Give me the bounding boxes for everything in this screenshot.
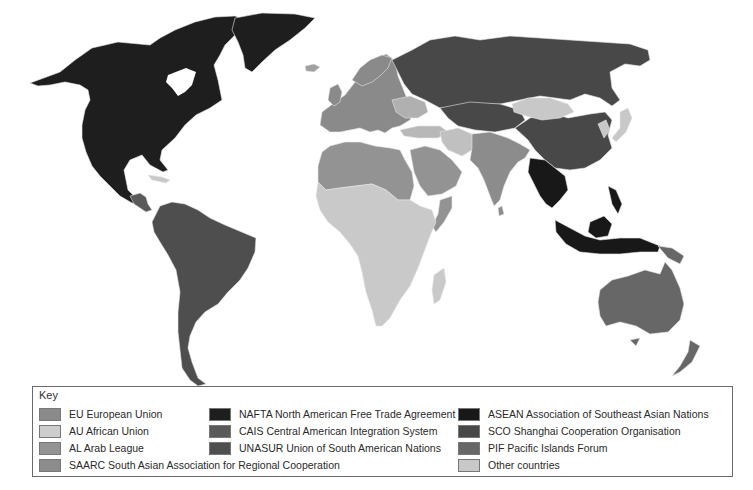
swatch-saarc xyxy=(39,459,61,472)
region-cais-central-america xyxy=(130,193,152,212)
key-label-unasur: UNASUR Union of South American Nations xyxy=(239,442,441,454)
region-pif-tasmania xyxy=(630,338,640,346)
region-au-madagascar xyxy=(432,268,446,304)
region-asean-borneo xyxy=(588,216,612,238)
key-label-au: AU African Union xyxy=(69,425,149,437)
key-item-al: AL Arab League xyxy=(39,440,144,456)
region-saarc-sri-lanka xyxy=(498,206,504,216)
key-label-asean: ASEAN Association of Southeast Asian Nat… xyxy=(488,408,709,420)
key-item-sco: SCO Shanghai Cooperation Organisation xyxy=(458,423,681,439)
key-item-asean: ASEAN Association of Southeast Asian Nat… xyxy=(458,406,709,422)
key-label-al: AL Arab League xyxy=(69,442,144,454)
key-item-saarc: SAARC South Asian Association for Region… xyxy=(39,457,340,473)
swatch-nafta xyxy=(209,408,231,421)
region-nafta-greenland xyxy=(232,13,315,72)
region-au-africa xyxy=(316,182,436,326)
key-item-eu: EU European Union xyxy=(39,406,162,422)
key-item-unasur: UNASUR Union of South American Nations xyxy=(209,440,441,456)
swatch-other xyxy=(458,459,480,472)
key-label-nafta: NAFTA North American Free Trade Agreemen… xyxy=(239,408,455,420)
swatch-cais xyxy=(209,425,231,438)
region-al-arabia xyxy=(410,146,462,196)
map-key: Key EU European Union AU African Union A… xyxy=(32,386,733,477)
key-item-pif: PIF Pacific Islands Forum xyxy=(458,440,608,456)
region-other-iran xyxy=(440,128,475,156)
key-label-sco: SCO Shanghai Cooperation Organisation xyxy=(488,425,681,437)
region-saarc-south-asia xyxy=(470,132,530,206)
key-label-other: Other countries xyxy=(488,459,560,471)
region-other-iceland xyxy=(305,64,320,72)
region-pif-new-zealand xyxy=(672,340,700,376)
region-pif-papua xyxy=(658,246,684,264)
region-unasur-south-america xyxy=(152,202,256,386)
key-label-eu: EU European Union xyxy=(69,408,162,420)
swatch-al xyxy=(39,442,61,455)
swatch-au xyxy=(39,425,61,438)
region-other-caribbean xyxy=(148,175,170,183)
key-title: Key xyxy=(39,389,58,401)
key-item-cais: CAIS Central American Integration System xyxy=(209,423,437,439)
key-label-pif: PIF Pacific Islands Forum xyxy=(488,442,608,454)
key-label-saarc: SAARC South Asian Association for Region… xyxy=(69,459,340,471)
swatch-asean xyxy=(458,408,480,421)
key-item-au: AU African Union xyxy=(39,423,149,439)
swatch-sco xyxy=(458,425,480,438)
region-pif-australia xyxy=(598,262,684,334)
region-al-somalia xyxy=(432,196,452,232)
region-sco-russia xyxy=(392,36,650,108)
region-other-japan xyxy=(612,108,632,142)
swatch-unasur xyxy=(209,442,231,455)
region-sco-central-asia xyxy=(440,102,525,132)
swatch-pif xyxy=(458,442,480,455)
key-label-cais: CAIS Central American Integration System xyxy=(239,425,437,437)
key-item-nafta: NAFTA North American Free Trade Agreemen… xyxy=(209,406,455,422)
region-asean-philippines xyxy=(608,186,622,214)
swatch-eu xyxy=(39,408,61,421)
region-nafta-north-america xyxy=(30,16,250,204)
key-item-other: Other countries xyxy=(458,457,560,473)
